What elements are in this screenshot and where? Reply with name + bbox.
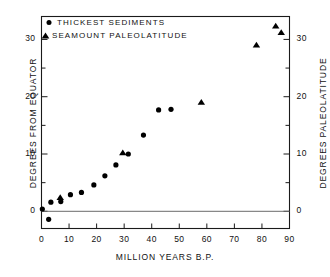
data-point-triangle: [198, 99, 205, 105]
y-tick-label-right: 20: [297, 91, 315, 101]
legend-label-seamount-paleolatitude: SEAMOUNT PALEOLATITUDE: [52, 31, 188, 40]
data-point-circle: [79, 190, 84, 195]
data-point-circle: [156, 107, 161, 112]
y-axis-label-right: DEGREES PALEOLATITUDE: [318, 28, 328, 218]
y-tick-label-right: 0: [297, 205, 315, 215]
data-point-circle: [168, 107, 173, 112]
axis-ticks: [42, 39, 290, 228]
y-tick-label-left: 0: [18, 205, 36, 215]
data-point-triangle: [278, 29, 285, 35]
data-point-circle: [126, 151, 131, 156]
x-tick-label: 10: [60, 234, 78, 244]
data-point-circle: [48, 200, 53, 205]
x-tick-label: 70: [225, 234, 243, 244]
legend-marker-circle: [47, 20, 52, 25]
data-point-triangle: [119, 149, 126, 155]
data-point-circle: [40, 206, 45, 211]
legend-label-thickest-sediments: THICKEST SEDIMENTS: [57, 18, 165, 27]
x-tick-label: 0: [33, 234, 51, 244]
y-tick-label-left: 30: [18, 33, 36, 43]
data-point-circle: [102, 173, 107, 178]
data-point-circle: [68, 192, 73, 197]
x-tick-label: 60: [198, 234, 216, 244]
y-tick-label-right: 10: [297, 148, 315, 158]
x-tick-label: 90: [281, 234, 299, 244]
data-point-circle: [91, 182, 96, 187]
data-point-circle: [141, 133, 146, 138]
chart-figure: DEGREES FROM EQUATOR DEGREES PALEOLATITU…: [0, 0, 330, 277]
x-tick-label: 20: [88, 234, 106, 244]
y-tick-label-right: 30: [297, 33, 315, 43]
y-tick-label-left: 10: [18, 148, 36, 158]
data-points: [40, 23, 285, 222]
x-axis-label: MILLION YEARS B.P.: [41, 252, 289, 262]
legend-markers: [42, 20, 52, 38]
plot-frame: [42, 17, 290, 229]
x-tick-label: 80: [253, 234, 271, 244]
data-point-triangle: [253, 42, 260, 48]
data-point-circle: [113, 162, 118, 167]
data-point-circle: [46, 217, 51, 222]
y-tick-label-left: 20: [18, 91, 36, 101]
x-tick-label: 30: [115, 234, 133, 244]
legend-marker-triangle: [42, 33, 50, 39]
y-axis-label-left: DEGREES FROM EQUATOR: [28, 28, 38, 218]
x-tick-label: 50: [170, 234, 188, 244]
data-point-triangle: [57, 194, 64, 200]
x-tick-label: 40: [143, 234, 161, 244]
data-point-triangle: [272, 23, 279, 29]
